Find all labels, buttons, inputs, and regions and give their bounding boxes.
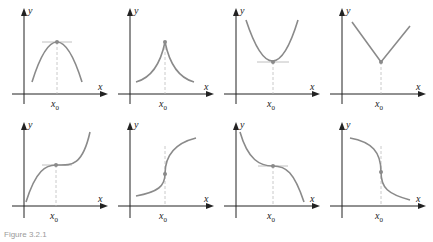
point-marker xyxy=(379,60,383,64)
graph-local-max-smooth: y x x0 xyxy=(4,4,112,114)
y-axis-arrow-icon xyxy=(21,122,27,130)
x0-label-sub: 0 xyxy=(271,104,275,112)
x0-label: x0 xyxy=(51,99,59,112)
x0-label-sub: 0 xyxy=(163,104,167,112)
curve xyxy=(136,138,196,196)
y-axis-label: y xyxy=(240,6,244,16)
x-axis-label: x xyxy=(416,194,420,204)
graph-local-min-smooth: y x x0 xyxy=(216,4,324,114)
x0-label: x0 xyxy=(159,99,167,112)
x-axis-label: x xyxy=(310,194,314,204)
y-axis-arrow-icon xyxy=(339,8,345,16)
x-axis-label: x xyxy=(204,194,208,204)
graph-increasing-horizontal-inflection: y x x0 xyxy=(4,118,112,228)
x0-label: x0 xyxy=(267,99,275,112)
y-axis-label: y xyxy=(28,6,32,16)
graph-corner-min: y x x0 xyxy=(322,4,430,114)
curve xyxy=(26,132,90,202)
y-axis-arrow-icon xyxy=(233,122,239,130)
y-axis-label: y xyxy=(346,120,350,130)
point-marker xyxy=(163,172,167,176)
point-marker xyxy=(379,170,383,174)
x0-label: x0 xyxy=(375,99,383,112)
y-axis-label: y xyxy=(240,120,244,130)
graph-cusp-max: y x x0 xyxy=(110,4,218,114)
graph-decreasing-horizontal-inflection: y x x0 xyxy=(216,118,324,228)
x0-label-sub: 0 xyxy=(379,104,383,112)
graph-decreasing-vertical-tangent: y x x0 xyxy=(322,118,430,228)
point-marker xyxy=(55,40,59,44)
x0-label: x0 xyxy=(375,211,383,224)
curve xyxy=(352,22,410,62)
y-axis-label: y xyxy=(134,120,138,130)
figure-caption: Figure 3.2.1 xyxy=(4,230,47,239)
y-axis-label: y xyxy=(134,6,138,16)
curve xyxy=(246,20,298,61)
y-axis-arrow-icon xyxy=(339,122,345,130)
y-axis-arrow-icon xyxy=(127,122,133,130)
x-axis-label: x xyxy=(204,82,208,92)
curve xyxy=(350,138,410,200)
x0-label-sub: 0 xyxy=(55,104,59,112)
y-axis-label: y xyxy=(346,6,350,16)
graph-svg xyxy=(110,4,218,114)
x-axis-label: x xyxy=(416,82,420,92)
x0-label: x0 xyxy=(267,211,275,224)
y-axis-arrow-icon xyxy=(233,8,239,16)
graph-increasing-vertical-tangent: y x x0 xyxy=(110,118,218,228)
y-axis-arrow-icon xyxy=(21,8,27,16)
y-axis-label: y xyxy=(28,120,32,130)
point-marker xyxy=(271,60,275,64)
point-marker xyxy=(271,164,275,168)
x0-label-sub: 0 xyxy=(271,216,275,224)
x0-label-sub: 0 xyxy=(54,216,58,224)
graph-svg xyxy=(4,4,112,114)
y-axis-arrow-icon xyxy=(127,8,133,16)
x-axis-label: x xyxy=(98,82,102,92)
point-marker xyxy=(163,40,167,44)
graph-svg xyxy=(4,118,112,228)
x-axis-label: x xyxy=(98,194,102,204)
x0-label: x0 xyxy=(50,211,58,224)
x-axis-label: x xyxy=(310,82,314,92)
x0-label-sub: 0 xyxy=(163,216,167,224)
x0-label: x0 xyxy=(159,211,167,224)
x0-label-sub: 0 xyxy=(379,216,383,224)
point-marker xyxy=(54,163,58,167)
